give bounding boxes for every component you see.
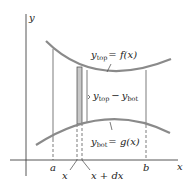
area-strip: [77, 67, 82, 124]
x-axis-label: x: [177, 161, 183, 172]
tick-label-x: x: [62, 170, 68, 181]
bottom-label-leader: [110, 122, 112, 130]
y-axis-label: y: [28, 12, 35, 23]
tick-label-x-plus-dx: x + dx: [91, 170, 124, 181]
x-tick-leader: [70, 160, 77, 170]
x-dx-tick-leader: [82, 160, 90, 170]
strip-label-bracket: [88, 95, 90, 99]
tick-label-b: b: [143, 162, 149, 173]
area-between-curves-diagram: y x ytop= f(x) ytop−ybot ybot= g(x) a b …: [0, 0, 189, 187]
top-curve-label: ytop= f(x): [90, 49, 137, 62]
tick-label-a: a: [50, 162, 56, 173]
bottom-curve-label: ybot= g(x): [90, 136, 140, 149]
strip-height-label: ytop−ybot: [92, 90, 138, 103]
